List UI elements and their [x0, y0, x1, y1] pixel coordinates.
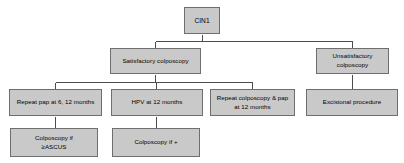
- node-repeat-colposcopy-and-pap[interactable]: Repeat colposcopy & pap at 12 months: [210, 89, 295, 116]
- node-colposcopy-if-positive[interactable]: Colposcopy if +: [112, 128, 200, 157]
- node-satisfactory-colposcopy[interactable]: Satisfactory colposcopy: [110, 48, 201, 74]
- node-colposcopy-if-ascus[interactable]: Colposcopy if ≥ASCUS: [10, 128, 98, 157]
- flowchart-canvas: CIN1 Satisfactory colposcopy Unsatisfact…: [0, 0, 404, 163]
- node-cin1[interactable]: CIN1: [184, 7, 220, 34]
- node-unsatisfactory-colposcopy[interactable]: Unsatisfactory colposcopy: [316, 48, 389, 74]
- node-repeat-pap[interactable]: Repeat pap at 6, 12 months: [9, 89, 102, 116]
- node-excisional-procedure[interactable]: Excisional procedure: [306, 89, 398, 116]
- node-hpv-at-12-months[interactable]: HPV at 12 months: [111, 89, 203, 116]
